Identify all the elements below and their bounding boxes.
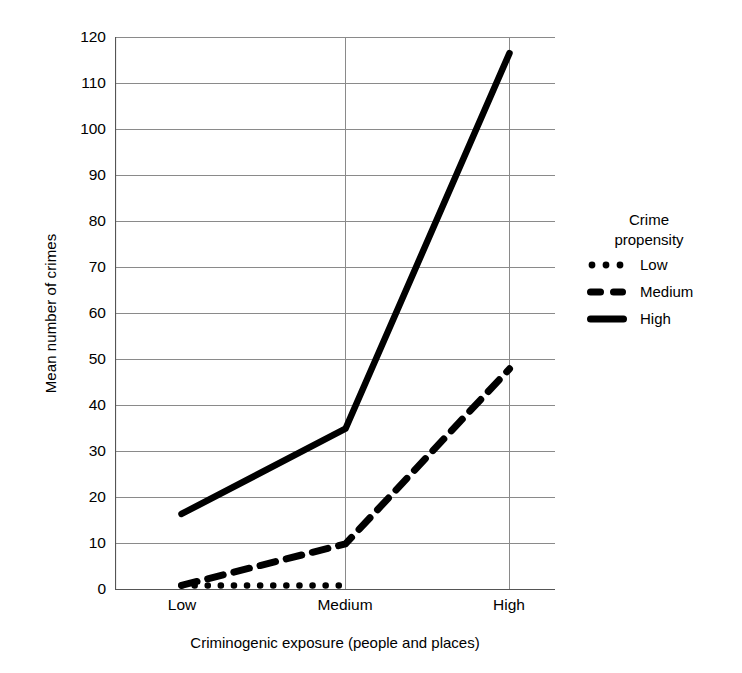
dotted-line-sample-icon xyxy=(586,256,632,274)
x-tick-label-low: Low xyxy=(122,596,242,614)
y-tick-label: 20 xyxy=(66,489,106,505)
legend: Crime propensity Low xyxy=(586,210,736,331)
plot-area xyxy=(115,37,555,590)
gridlines xyxy=(115,38,555,544)
chart-figure: Mean number of crimes 120 110 100 90 80 … xyxy=(0,0,742,673)
legend-item-medium: Medium xyxy=(586,279,736,304)
x-tick-label-medium: Medium xyxy=(285,596,405,614)
x-tick-label-high: High xyxy=(449,596,569,614)
y-tick-label: 110 xyxy=(66,75,106,91)
legend-label-medium: Medium xyxy=(640,283,693,300)
y-tick-label: 0 xyxy=(66,581,106,597)
y-tick-label: 60 xyxy=(66,305,106,321)
x-axis-title: Criminogenic exposure (people and places… xyxy=(115,634,555,651)
solid-line-sample-icon xyxy=(586,310,632,328)
y-tick-label: 80 xyxy=(66,213,106,229)
plot-svg xyxy=(115,37,555,590)
y-tick-label: 120 xyxy=(66,29,106,45)
y-tick-label: 70 xyxy=(66,259,106,275)
y-tick-label: 50 xyxy=(66,351,106,367)
dashed-line-sample-icon xyxy=(586,283,632,301)
y-axis-tick-labels: 120 110 100 90 80 70 60 50 40 30 20 10 0 xyxy=(58,0,106,673)
legend-title-line-1: Crime xyxy=(586,210,712,230)
y-tick-label: 40 xyxy=(66,397,106,413)
y-tick-label: 10 xyxy=(66,535,106,551)
y-tick-label: 90 xyxy=(66,167,106,183)
legend-item-low: Low xyxy=(586,252,736,277)
legend-title: Crime propensity xyxy=(586,210,712,250)
legend-item-high: High xyxy=(586,306,736,331)
y-tick-label: 30 xyxy=(66,443,106,459)
legend-title-line-2: propensity xyxy=(586,230,712,250)
y-tick-label: 100 xyxy=(66,121,106,137)
legend-label-low: Low xyxy=(640,256,668,273)
legend-label-high: High xyxy=(640,310,671,327)
